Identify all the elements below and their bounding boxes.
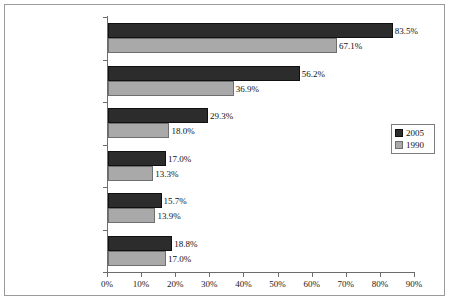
legend-item-1990: 1990 <box>395 139 431 150</box>
bar-value-label: 29.3% <box>210 111 233 121</box>
dark-swatch-icon <box>395 129 403 137</box>
bar-value-label: 56.2% <box>302 69 325 79</box>
x-axis-tick <box>107 273 108 277</box>
bar-value-label: 83.5% <box>395 26 418 36</box>
y-axis-tick <box>103 102 107 103</box>
bar <box>108 81 234 96</box>
x-axis-tick <box>380 273 381 277</box>
y-axis-tick <box>103 230 107 231</box>
bar-value-label: 18.0% <box>171 126 194 136</box>
y-axis-line <box>107 16 108 273</box>
bar <box>108 251 166 266</box>
bar-value-label: 13.9% <box>157 211 180 221</box>
legend-item-2005: 2005 <box>395 127 431 138</box>
x-axis-tick <box>346 273 347 277</box>
bar-value-label: 17.0% <box>168 254 191 264</box>
x-axis-tick <box>312 273 313 277</box>
bar-value-label: 15.7% <box>164 196 187 206</box>
x-axis-tick <box>141 273 142 277</box>
chart-figure: 0%10%20%30%40%50%60%70%80%90% Under age … <box>0 0 450 301</box>
x-axis-tick <box>175 273 176 277</box>
x-axis-tick <box>243 273 244 277</box>
bar <box>108 123 169 138</box>
x-axis-tick <box>209 273 210 277</box>
bar <box>108 108 208 123</box>
bar <box>108 66 300 81</box>
y-axis-tick <box>103 17 107 18</box>
bar <box>108 38 337 53</box>
bar <box>108 193 162 208</box>
bar-value-label: 67.1% <box>339 41 362 51</box>
y-axis-tick <box>103 272 107 273</box>
x-axis-tick <box>278 273 279 277</box>
bar <box>108 166 153 181</box>
bar <box>108 151 166 166</box>
x-axis-tick-label: 90% <box>394 279 434 290</box>
bar-value-label: 36.9% <box>236 84 259 94</box>
bar <box>108 23 393 38</box>
bar-value-label: 17.0% <box>168 154 191 164</box>
light-swatch-icon <box>395 141 403 149</box>
bar <box>108 208 155 223</box>
y-axis-tick <box>103 187 107 188</box>
bar-value-label: 18.8% <box>174 239 197 249</box>
x-axis-line <box>107 272 415 273</box>
y-axis-tick <box>103 145 107 146</box>
legend-label-2005: 2005 <box>406 128 424 138</box>
bar <box>108 236 172 251</box>
chart-legend: 2005 1990 <box>391 124 435 154</box>
legend-label-1990: 1990 <box>406 140 424 150</box>
x-axis-tick <box>414 273 415 277</box>
bar-value-label: 13.3% <box>155 169 178 179</box>
y-axis-tick <box>103 60 107 61</box>
